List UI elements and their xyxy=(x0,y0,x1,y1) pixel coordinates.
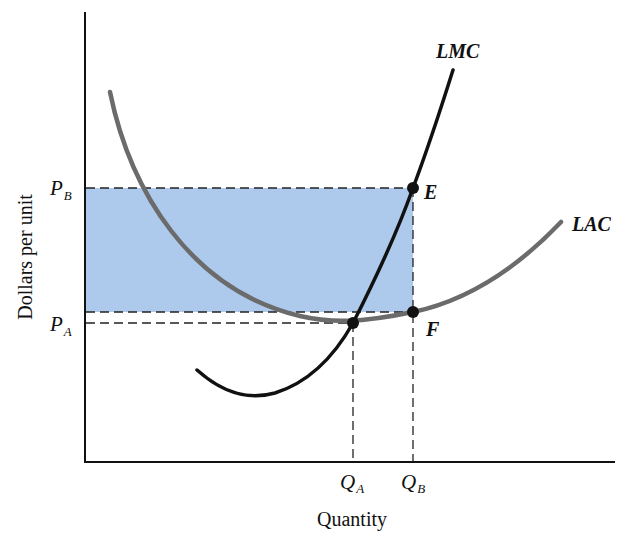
point-e-label: E xyxy=(423,181,437,203)
lac-label: LAC xyxy=(571,213,612,235)
pa-symbol: P xyxy=(49,312,63,336)
cost-curves-diagram: LMC LAC E F PB PA QA QB Quantity Dollars… xyxy=(0,0,628,542)
pa-label: PA xyxy=(49,312,72,339)
qb-label: QB xyxy=(401,470,425,496)
qa-subscript: A xyxy=(355,481,364,496)
qa-symbol: Q xyxy=(340,470,355,494)
point-lac-minimum xyxy=(347,317,359,329)
lmc-label: LMC xyxy=(435,40,480,62)
qb-subscript: B xyxy=(417,481,425,496)
point-f-label: F xyxy=(425,318,440,340)
pb-subscript: B xyxy=(64,188,72,203)
pa-subscript: A xyxy=(63,324,72,339)
pb-label: PB xyxy=(49,176,72,203)
point-e xyxy=(407,182,419,194)
qb-symbol: Q xyxy=(401,470,416,494)
qa-label: QA xyxy=(340,470,364,496)
y-axis-title: Dollars per unit xyxy=(14,194,37,320)
pb-symbol: P xyxy=(49,176,63,200)
shaded-profit-region xyxy=(86,188,413,312)
x-axis-title: Quantity xyxy=(317,508,387,531)
point-f xyxy=(407,306,419,318)
